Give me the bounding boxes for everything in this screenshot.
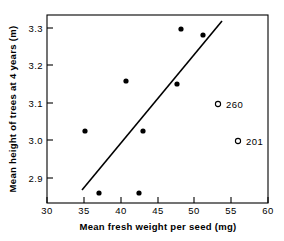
x-axis-tick-labels: 30 35 40 45 50 55 60 [41, 205, 273, 216]
annotated-points: 260 201 [215, 99, 263, 147]
annotation-label-260: 260 [226, 99, 243, 110]
y-axis-tick-labels: 3.3 3.2 3.1 3.0 2.9 [29, 23, 43, 184]
regression-line [82, 21, 222, 190]
y-axis-ticks [47, 28, 53, 178]
y-tick-label-2.9: 2.9 [29, 173, 43, 184]
data-point [200, 32, 205, 37]
open-circle-marker-201 [235, 138, 240, 143]
data-points-filled [82, 26, 205, 195]
data-point [82, 128, 87, 133]
data-point [136, 190, 141, 195]
annotation-label-201: 201 [246, 136, 263, 147]
x-tick-label-35: 35 [78, 205, 89, 216]
y-axis-title: Mean height of trees at 4 years (m) [7, 26, 18, 193]
x-tick-label-50: 50 [188, 205, 199, 216]
y-tick-label-3.3: 3.3 [29, 23, 43, 34]
data-point [178, 26, 183, 31]
data-point [140, 128, 145, 133]
x-tick-label-45: 45 [152, 205, 163, 216]
x-axis-title: Mean fresh weight per seed (mg) [79, 221, 236, 232]
y-tick-label-3.0: 3.0 [29, 135, 43, 146]
x-tick-label-55: 55 [225, 205, 236, 216]
x-tick-label-30: 30 [41, 205, 52, 216]
y-tick-label-3.1: 3.1 [29, 98, 43, 109]
data-point [123, 78, 128, 83]
scatter-plot-figure: 3.3 3.2 3.1 3.0 2.9 30 35 40 45 50 55 60 [0, 0, 284, 241]
data-point [174, 81, 179, 86]
x-tick-label-60: 60 [262, 205, 273, 216]
open-circle-marker-260 [215, 101, 220, 106]
x-axis-ticks [47, 197, 268, 203]
y-tick-label-3.2: 3.2 [29, 60, 43, 71]
data-point [96, 190, 101, 195]
x-tick-label-40: 40 [115, 205, 126, 216]
plot-canvas: 3.3 3.2 3.1 3.0 2.9 30 35 40 45 50 55 60 [0, 0, 284, 241]
